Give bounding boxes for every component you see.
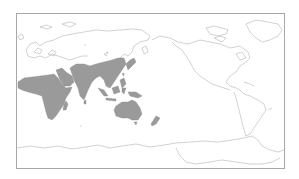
range-tasmania: [134, 122, 137, 125]
range-sri-lanka: [84, 100, 86, 104]
range-new-zealand: [151, 116, 160, 126]
range-sulawesi: [122, 88, 126, 94]
range-java: [106, 98, 116, 101]
range-taiwan: [122, 73, 124, 76]
range-philippines: [120, 78, 126, 88]
range-japan: [126, 58, 136, 70]
range-borneo: [112, 86, 120, 94]
range-south-asia: [70, 58, 126, 100]
world-map: [0, 0, 299, 179]
distribution-range: [18, 58, 160, 126]
range-new-guinea: [128, 92, 142, 98]
range-australia: [114, 100, 142, 120]
range-sumatra: [98, 88, 108, 96]
